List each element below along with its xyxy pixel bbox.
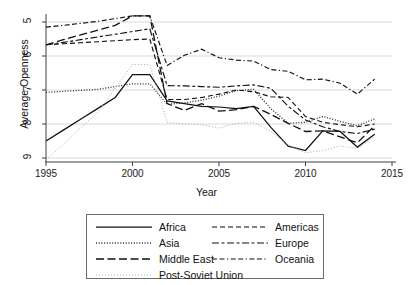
legend-item[interactable]: Middle East [96, 251, 214, 267]
x-axis-tick-label: 2005 [199, 168, 239, 179]
chart-legend: AfricaAmericasAsiaEuropeMiddle EastOcean… [86, 214, 324, 279]
legend-row: Post-Soviet Union [87, 267, 323, 283]
x-axis-tick-label: 2000 [113, 168, 153, 179]
series-line [46, 65, 375, 160]
y-axis-tick-label: 8 [22, 116, 33, 130]
x-axis-tick-label: 2010 [286, 168, 326, 179]
legend-item[interactable]: Americas [212, 219, 319, 235]
legend-item[interactable]: Asia [96, 235, 179, 251]
legend-item-label: Oceania [275, 253, 314, 265]
series-line [46, 16, 375, 94]
series-line [46, 29, 375, 134]
x-axis-tick-label: 2015 [372, 168, 412, 179]
legend-swatch-icon [212, 254, 268, 264]
legend-item[interactable]: Post-Soviet Union [96, 267, 243, 283]
y-axis-tick-label: 5 [22, 14, 33, 28]
series-line [46, 75, 375, 151]
legend-item[interactable]: Europe [212, 235, 309, 251]
legend-item[interactable]: Oceania [212, 251, 314, 267]
legend-item-label: Post-Soviet Union [159, 269, 243, 281]
legend-row: Middle EastOceania [87, 251, 323, 267]
legend-row: AsiaEurope [87, 235, 323, 251]
legend-row: AfricaAmericas [87, 219, 323, 235]
legend-item-label: Africa [159, 221, 186, 233]
legend-swatch-icon [96, 222, 152, 232]
chart-figure: Average Openness Year AfricaAmericasAsia… [0, 0, 413, 285]
legend-swatch-icon [96, 254, 152, 264]
legend-item-label: Middle East [159, 253, 214, 265]
legend-swatch-icon [96, 270, 152, 280]
legend-swatch-icon [212, 238, 268, 248]
y-axis-tick-label: 7 [22, 82, 33, 96]
x-axis-tick-label: 1995 [26, 168, 66, 179]
legend-item-label: Europe [275, 237, 309, 249]
legend-item[interactable]: Africa [96, 219, 186, 235]
legend-item-label: Asia [159, 237, 179, 249]
y-axis-tick-label: 6 [22, 48, 33, 62]
y-axis-tick-label: 9 [22, 150, 33, 164]
series-line [46, 39, 375, 127]
x-axis-title: Year [0, 186, 413, 198]
legend-item-label: Americas [275, 221, 319, 233]
legend-swatch-icon [212, 222, 268, 232]
legend-swatch-icon [96, 238, 152, 248]
